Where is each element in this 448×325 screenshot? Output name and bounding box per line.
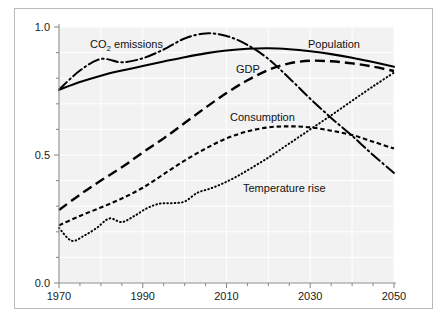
x-tick-label: 2050	[382, 290, 406, 302]
series-label-consumption: Consumption	[230, 111, 295, 123]
y-tick-label: 0.0	[35, 277, 50, 289]
x-tick-label: 1990	[131, 290, 155, 302]
chart-canvas: 0.00.51.019701990201020302050CO2 emissio…	[0, 0, 448, 325]
x-tick-label: 2030	[298, 290, 322, 302]
x-tick-label: 1970	[47, 290, 71, 302]
series-label-gdp: GDP	[236, 63, 260, 75]
series-label-population: Population	[308, 38, 360, 50]
series-label-temperature-rise: Temperature rise	[243, 182, 326, 194]
chart-figure: 0.00.51.019701990201020302050CO2 emissio…	[0, 0, 448, 325]
y-tick-label: 1.0	[35, 21, 50, 33]
line-chart-svg: 0.00.51.019701990201020302050CO2 emissio…	[0, 0, 448, 325]
x-tick-label: 2010	[214, 290, 238, 302]
y-tick-label: 0.5	[35, 149, 50, 161]
